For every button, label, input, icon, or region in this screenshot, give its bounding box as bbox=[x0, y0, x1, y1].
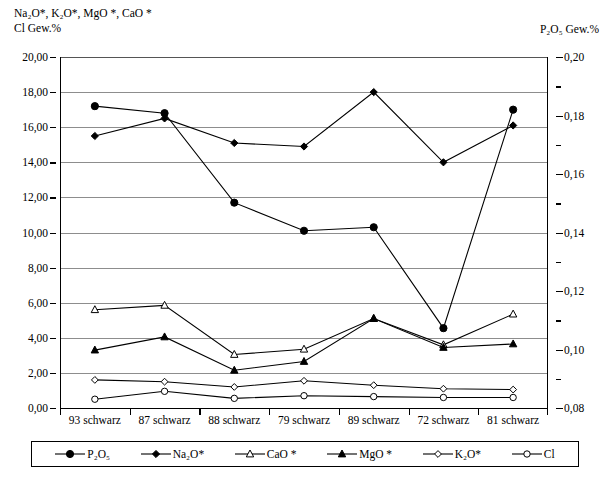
data-point bbox=[370, 382, 377, 389]
left-tick-label: 8,00 bbox=[28, 262, 48, 274]
data-point bbox=[370, 314, 377, 321]
data-point bbox=[300, 227, 307, 234]
data-point bbox=[161, 378, 168, 385]
legend: P₂O₅Na₂O*CaO *MgO *K₂O*Cl bbox=[31, 441, 579, 467]
right-tick-mark bbox=[556, 116, 563, 117]
left-tick-mark bbox=[50, 338, 56, 339]
left-tick-label: 10,00 bbox=[22, 227, 48, 239]
left-tick-label: 4,00 bbox=[28, 332, 48, 344]
x-axis-label: 72 schwarz bbox=[417, 414, 469, 426]
left-tick-mark bbox=[50, 408, 56, 409]
series-ko bbox=[91, 377, 516, 393]
left-tick-label: 14,00 bbox=[22, 156, 48, 168]
legend-label: CaO * bbox=[267, 448, 297, 460]
data-point bbox=[440, 325, 447, 332]
legend-label: Na₂O* bbox=[173, 448, 204, 460]
series-cl bbox=[92, 388, 517, 402]
data-point bbox=[231, 384, 238, 391]
right-tick-label: 0,16 bbox=[564, 168, 584, 180]
left-tick-label: 0,00 bbox=[28, 402, 48, 414]
left-axis-title-line1: Na₂O*, K₂O*, MgO *, CaO * bbox=[14, 6, 152, 21]
legend-item[interactable]: Na₂O* bbox=[141, 447, 204, 461]
legend-item[interactable]: CaO * bbox=[235, 447, 297, 461]
series-line bbox=[95, 106, 513, 328]
left-tick-label: 12,00 bbox=[22, 191, 48, 203]
data-point bbox=[509, 310, 516, 317]
left-tick-mark bbox=[50, 373, 56, 374]
legend-item[interactable]: MgO * bbox=[327, 447, 392, 461]
right-tick-mark bbox=[556, 320, 561, 321]
legend-item[interactable]: P₂O₅ bbox=[55, 447, 110, 461]
left-tick-mark bbox=[50, 57, 56, 58]
right-tick-mark bbox=[556, 291, 563, 292]
filled-circle-icon bbox=[55, 447, 85, 461]
data-point bbox=[510, 122, 517, 129]
right-tick-mark bbox=[556, 145, 561, 146]
left-tick-label: 2,00 bbox=[28, 367, 48, 379]
left-tick-mark bbox=[50, 162, 56, 163]
data-point bbox=[161, 388, 167, 394]
open-triangle-icon bbox=[235, 447, 265, 461]
right-tick-label: 0,20 bbox=[564, 51, 584, 63]
data-point bbox=[231, 395, 237, 401]
left-tick-label: 20,00 bbox=[22, 51, 48, 63]
data-point bbox=[301, 377, 308, 384]
legend-label: MgO * bbox=[359, 448, 392, 460]
legend-label: K₂O* bbox=[455, 448, 481, 460]
data-point bbox=[231, 139, 238, 146]
filled-diamond-icon bbox=[141, 447, 171, 461]
x-axis-labels: 93 schwarz87 schwarz88 schwarz79 schwarz… bbox=[60, 414, 548, 434]
legend-item[interactable]: Cl bbox=[512, 447, 555, 461]
right-tick-mark bbox=[556, 233, 563, 234]
series-cao bbox=[91, 301, 517, 357]
x-axis-label: 88 schwarz bbox=[208, 414, 260, 426]
series-nao bbox=[91, 89, 516, 166]
series-layer bbox=[60, 57, 548, 408]
left-tick-label: 16,00 bbox=[22, 121, 48, 133]
left-tick-label: 6,00 bbox=[28, 297, 48, 309]
right-tick-label: 0,10 bbox=[564, 344, 584, 356]
right-tick-label: 0,08 bbox=[564, 402, 584, 414]
legend-label: Cl bbox=[544, 448, 555, 460]
data-point bbox=[91, 132, 98, 139]
data-point bbox=[300, 357, 307, 364]
data-point bbox=[231, 199, 238, 206]
x-axis-label: 93 schwarz bbox=[69, 414, 121, 426]
right-tick-mark bbox=[556, 379, 561, 380]
right-tick-mark bbox=[556, 86, 561, 87]
series-mgo bbox=[91, 314, 517, 373]
data-point bbox=[92, 396, 98, 402]
x-axis-label: 81 schwarz bbox=[487, 414, 539, 426]
left-axis-title-line2: Cl Gew.% bbox=[14, 21, 152, 36]
left-tick-mark bbox=[50, 233, 56, 234]
data-point bbox=[370, 224, 377, 231]
right-tick-label: 0,18 bbox=[564, 110, 584, 122]
data-point bbox=[301, 393, 307, 399]
right-tick-mark bbox=[556, 203, 561, 204]
left-axis-ticks: 20,0018,0016,0014,0012,0010,008,006,004,… bbox=[0, 57, 56, 408]
left-tick-mark bbox=[50, 268, 56, 269]
x-axis-label: 87 schwarz bbox=[139, 414, 191, 426]
data-point bbox=[91, 377, 98, 384]
right-tick-mark bbox=[556, 408, 563, 409]
data-point bbox=[440, 385, 447, 392]
open-diamond-icon bbox=[423, 447, 453, 461]
right-tick-mark bbox=[556, 174, 563, 175]
data-point bbox=[510, 106, 517, 113]
left-tick-mark bbox=[50, 127, 56, 128]
legend-item[interactable]: K₂O* bbox=[423, 447, 481, 461]
data-point bbox=[91, 103, 98, 110]
data-point bbox=[440, 394, 446, 400]
data-point bbox=[510, 386, 517, 393]
right-tick-label: 0,14 bbox=[564, 227, 584, 239]
right-tick-label: 0,12 bbox=[564, 285, 584, 297]
left-tick-mark bbox=[50, 303, 56, 304]
data-point bbox=[509, 340, 516, 347]
legend-label: P₂O₅ bbox=[87, 448, 110, 460]
left-tick-mark bbox=[50, 92, 56, 93]
left-axis-title: Na₂O*, K₂O*, MgO *, CaO * Cl Gew.% bbox=[14, 6, 152, 36]
series-po bbox=[91, 103, 516, 332]
x-axis-label: 79 schwarz bbox=[278, 414, 330, 426]
data-point bbox=[161, 301, 168, 308]
right-tick-mark bbox=[556, 262, 561, 263]
